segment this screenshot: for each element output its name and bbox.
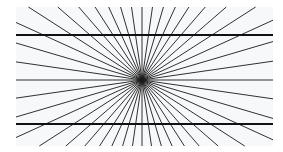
hering-illusion-figure — [0, 0, 283, 152]
